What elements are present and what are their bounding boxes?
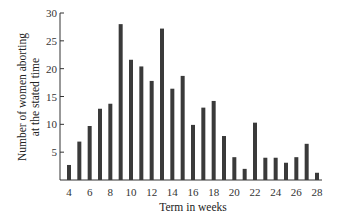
y-tick-label: 10 bbox=[46, 118, 58, 130]
bar bbox=[201, 108, 205, 180]
x-axis: 46810121416182022242628 bbox=[60, 180, 323, 198]
y-tick-label: 20 bbox=[46, 63, 58, 75]
y-tick-label: 25 bbox=[46, 35, 58, 47]
y-tick-label: 5 bbox=[52, 146, 58, 158]
bar bbox=[243, 169, 247, 180]
y-axis-title-line-2: at the stated time bbox=[29, 58, 41, 136]
bar bbox=[305, 144, 309, 180]
bar bbox=[139, 66, 143, 180]
x-tick-label: 14 bbox=[167, 186, 179, 198]
y-axis-title-line-1: Number of women aborting bbox=[16, 33, 29, 161]
bar bbox=[263, 158, 267, 180]
bar bbox=[253, 123, 257, 180]
x-tick-label: 24 bbox=[270, 186, 282, 198]
bar bbox=[315, 173, 319, 180]
x-tick-label: 10 bbox=[126, 186, 138, 198]
bar bbox=[77, 142, 81, 180]
bar bbox=[150, 81, 154, 180]
bar bbox=[98, 109, 102, 180]
x-tick-label: 16 bbox=[188, 186, 200, 198]
y-axis: 51015202530 bbox=[46, 7, 64, 180]
bar bbox=[191, 125, 195, 180]
bar bbox=[67, 165, 71, 180]
bar bbox=[181, 76, 185, 180]
bar bbox=[108, 104, 112, 180]
bar bbox=[160, 29, 164, 180]
bar bbox=[274, 158, 278, 180]
x-tick-label: 4 bbox=[66, 186, 72, 198]
x-tick-label: 6 bbox=[87, 186, 93, 198]
bar bbox=[284, 163, 288, 180]
bar bbox=[170, 89, 174, 180]
bar bbox=[119, 24, 123, 180]
bar bbox=[129, 60, 133, 180]
x-axis-title: Term in weeks bbox=[159, 201, 227, 213]
y-axis-title: Number of women aborting at the stated t… bbox=[16, 33, 41, 161]
x-tick-label: 20 bbox=[229, 186, 241, 198]
bar bbox=[88, 126, 92, 180]
bar bbox=[222, 136, 226, 180]
bar bbox=[212, 101, 216, 180]
x-tick-label: 26 bbox=[291, 186, 303, 198]
bar-chart: 51015202530 46810121416182022242628 Term… bbox=[0, 0, 341, 223]
x-tick-label: 22 bbox=[250, 186, 261, 198]
bars bbox=[67, 24, 319, 180]
x-tick-label: 28 bbox=[312, 186, 324, 198]
x-tick-label: 8 bbox=[108, 186, 114, 198]
x-tick-label: 18 bbox=[208, 186, 220, 198]
y-tick-label: 15 bbox=[46, 91, 58, 103]
bar bbox=[294, 157, 298, 180]
bar bbox=[232, 157, 236, 180]
y-tick-label: 30 bbox=[46, 7, 58, 19]
x-tick-label: 12 bbox=[146, 186, 157, 198]
